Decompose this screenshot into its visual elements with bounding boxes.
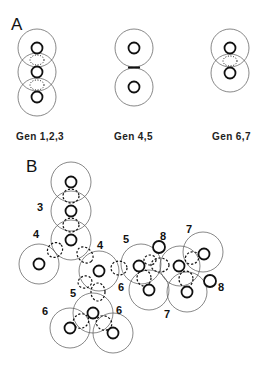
label-6-center: 6 <box>118 281 124 293</box>
gen-label-4-5: Gen 4,5 <box>114 131 153 142</box>
label-5-bottom: 5 <box>70 287 76 299</box>
gen-label-1-2-3: Gen 1,2,3 <box>16 131 64 142</box>
gen-6-7-figure <box>211 29 249 92</box>
gen-4-5-figure <box>115 29 153 106</box>
diagram-canvas: A Gen 1,2,3 Gen 4,5 Gen 6,7 B <box>0 0 270 370</box>
gen-1-2-3-figure <box>18 29 56 116</box>
label-6-left: 6 <box>42 305 48 317</box>
panel-b-network <box>19 162 223 353</box>
panel-letter-b: B <box>26 157 37 176</box>
label-4-center: 4 <box>97 239 104 251</box>
label-7-bottom: 7 <box>164 308 170 320</box>
label-5-top: 5 <box>123 233 129 245</box>
panel-letter-a: A <box>11 15 23 34</box>
gen-label-6-7: Gen 6,7 <box>212 131 251 142</box>
label-6-right: 6 <box>116 304 122 316</box>
label-8-top: 8 <box>160 230 166 242</box>
label-7-top: 7 <box>186 223 192 235</box>
label-3: 3 <box>37 201 43 213</box>
label-8-right: 8 <box>218 281 224 293</box>
label-4-left: 4 <box>33 228 40 240</box>
